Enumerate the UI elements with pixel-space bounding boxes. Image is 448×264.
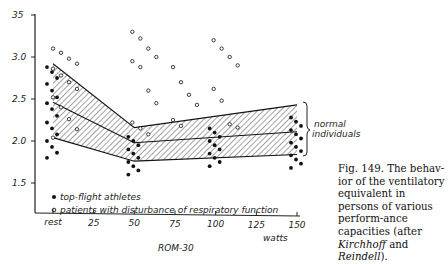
- patient-point: [75, 62, 78, 65]
- athlete-point: [299, 162, 303, 166]
- athlete-point: [208, 152, 212, 156]
- athlete-point: [218, 148, 222, 152]
- athlete-point: [50, 107, 54, 111]
- patient-point: [59, 51, 62, 54]
- caption-text: Fig. 149. The behav-ior of the ventilato…: [338, 163, 444, 237]
- patient-point: [59, 106, 62, 109]
- patient-point: [59, 74, 62, 77]
- patient-point: [220, 47, 223, 50]
- athlete-point: [294, 158, 298, 162]
- patient-point: [228, 55, 231, 58]
- x-tick-label: 100: [207, 219, 224, 229]
- patient-point: [228, 123, 231, 126]
- patient-point: [220, 99, 223, 102]
- patient-point: [187, 93, 190, 96]
- band-brace: normal individuals: [303, 102, 361, 156]
- legend-athletes: top-flight athletes: [60, 192, 141, 202]
- patient-point: [179, 81, 182, 84]
- athlete-point: [45, 82, 49, 86]
- patient-point: [67, 57, 70, 60]
- athlete-point: [289, 116, 293, 120]
- athlete-point: [55, 76, 59, 80]
- athlete-point: [294, 145, 298, 149]
- athlete-point: [45, 101, 49, 105]
- athlete-point: [213, 143, 217, 147]
- x-tick-label: 25: [88, 218, 100, 228]
- patient-point: [171, 118, 174, 121]
- athlete-point: [289, 141, 293, 145]
- athlete-point: [289, 166, 293, 170]
- patient-point: [131, 30, 134, 33]
- y-tick-label: 2.5: [12, 94, 27, 104]
- athlete-point: [55, 151, 59, 155]
- athlete-point: [208, 164, 212, 168]
- athlete-point: [45, 65, 49, 69]
- y-tick-label: 3.0: [12, 52, 27, 62]
- athlete-point: [126, 173, 130, 177]
- athlete-point: [299, 137, 303, 141]
- x-tick-label: 125: [248, 220, 265, 230]
- athlete-point: [126, 135, 130, 139]
- athlete-point: [45, 156, 49, 160]
- patient-point: [236, 64, 239, 67]
- athlete-point: [131, 139, 135, 143]
- y-tick-label: 1.5: [12, 178, 27, 188]
- athlete-point: [208, 126, 212, 130]
- x-unit-label: watts: [263, 233, 288, 243]
- athlete-point: [136, 169, 140, 173]
- patient-point: [147, 89, 150, 92]
- patient-point: [75, 128, 78, 131]
- y-tick-label: 2.0: [12, 136, 27, 146]
- patient-point: [75, 87, 78, 90]
- caption-suffix: ).: [381, 251, 388, 262]
- athlete-point: [50, 145, 54, 149]
- y-tick-label: 35: [12, 10, 24, 20]
- patient-point: [51, 136, 54, 139]
- patient-point: [236, 126, 239, 129]
- legend: top-flight athletes patients with distur…: [52, 192, 279, 215]
- athlete-point: [45, 121, 49, 125]
- patient-point: [147, 47, 150, 50]
- athlete-point: [299, 124, 303, 128]
- athlete-point: [213, 156, 217, 160]
- athlete-point: [218, 160, 222, 164]
- athlete-point: [289, 153, 293, 157]
- patient-point: [155, 55, 158, 58]
- patient-point: [139, 37, 142, 40]
- athlete-point: [55, 95, 59, 99]
- athlete-point: [131, 152, 135, 156]
- athlete-point: [45, 139, 49, 143]
- athlete-point: [131, 164, 135, 168]
- athlete-point: [213, 131, 217, 135]
- athlete-point: [50, 89, 54, 93]
- patient-point: [51, 47, 54, 50]
- x-tick-label: 150: [288, 220, 305, 230]
- patient-point: [179, 124, 182, 127]
- athlete-point: [299, 149, 303, 153]
- patient-point: [139, 65, 142, 68]
- athlete-point: [55, 114, 59, 118]
- legend-patients: patients with disturbance of respiratory…: [59, 205, 279, 215]
- patient-point: [155, 102, 158, 105]
- athlete-point: [218, 135, 222, 139]
- caption-author-2: Reindell: [338, 251, 381, 262]
- athlete-point: [55, 132, 59, 136]
- patient-point: [147, 133, 150, 136]
- patient-point: [131, 60, 134, 63]
- athlete-point: [208, 139, 212, 143]
- patient-point: [51, 67, 54, 70]
- patient-point: [195, 103, 198, 106]
- patient-point: [171, 65, 174, 68]
- band-label-normal: normal: [314, 119, 346, 129]
- patient-point: [67, 81, 70, 84]
- athlete-point: [126, 148, 130, 152]
- athlete-point: [50, 126, 54, 130]
- athlete-point: [294, 132, 298, 136]
- x-tick-label: rest: [44, 217, 62, 227]
- band-label-individuals: individuals: [312, 129, 361, 139]
- athlete-point: [294, 120, 298, 124]
- athlete-point: [289, 128, 293, 132]
- athlete-point: [136, 143, 140, 147]
- patient-point: [131, 121, 134, 124]
- x-sublabel: ROM-30: [158, 243, 194, 253]
